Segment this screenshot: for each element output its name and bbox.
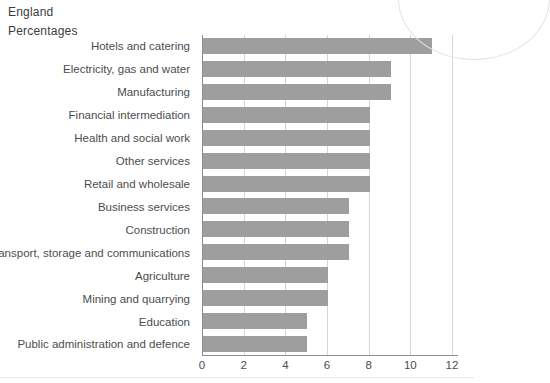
bar [203, 313, 307, 329]
category-label: Construction [0, 218, 196, 241]
category-label: Agriculture [0, 264, 196, 287]
bar-row [203, 126, 453, 149]
category-label: Electricity, gas and water [0, 58, 196, 81]
x-axis-tick-labels: 024681012 [202, 359, 458, 374]
category-label: Manufacturing [0, 81, 196, 104]
category-label: Hotels and catering [0, 35, 196, 58]
page-bottom-artifact [0, 377, 474, 378]
bar [203, 38, 432, 54]
bar [203, 176, 370, 192]
bar-row [203, 149, 453, 172]
bar-row [203, 264, 453, 287]
x-tick-label: 12 [446, 359, 459, 371]
bars-container [203, 35, 453, 355]
bar-row [203, 104, 453, 127]
bar [203, 267, 328, 283]
x-tick-label: 2 [240, 359, 246, 371]
category-label: Education [0, 310, 196, 333]
bar-row [203, 309, 453, 332]
x-tick-label: 6 [324, 359, 330, 371]
category-label: Retail and wholesale [0, 173, 196, 196]
category-label: Transport, storage and communications [0, 241, 196, 264]
category-label: Public administration and defence [0, 333, 196, 356]
x-tick-label: 4 [282, 359, 288, 371]
category-label: Mining and quarrying [0, 287, 196, 310]
bar [203, 290, 328, 306]
x-tick-label: 0 [199, 359, 205, 371]
bar [203, 153, 370, 169]
bar [203, 107, 370, 123]
x-tick-label: 8 [365, 359, 371, 371]
bar-row [203, 195, 453, 218]
category-label: Health and social work [0, 127, 196, 150]
category-label-column: Hotels and cateringElectricity, gas and … [0, 35, 196, 356]
bar [203, 221, 349, 237]
bar [203, 84, 391, 100]
x-tick-label: 10 [404, 359, 417, 371]
bar [203, 244, 349, 260]
bar-row [203, 81, 453, 104]
bar-row [203, 58, 453, 81]
chart-region-title: England [8, 5, 53, 19]
bar-row [203, 332, 453, 355]
bar-row [203, 218, 453, 241]
category-label: Other services [0, 150, 196, 173]
bar [203, 336, 307, 352]
category-label: Business services [0, 195, 196, 218]
bar-row [203, 286, 453, 309]
bar-row [203, 172, 453, 195]
bar-row [203, 241, 453, 264]
category-label: Financial intermediation [0, 104, 196, 127]
plot-area [202, 35, 458, 356]
bar [203, 198, 349, 214]
bar [203, 130, 370, 146]
bar [203, 61, 391, 77]
